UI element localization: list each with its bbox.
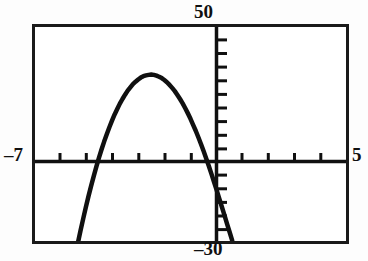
calculator-screen: 50 –30 –7 5 — [0, 0, 368, 261]
y-min-label: –30 — [194, 239, 223, 258]
y-max-label: 50 — [194, 2, 213, 21]
x-max-label: 5 — [352, 145, 362, 164]
plot-frame — [34, 26, 348, 243]
x-min-label: –7 — [4, 145, 23, 164]
plot-canvas — [0, 0, 368, 261]
